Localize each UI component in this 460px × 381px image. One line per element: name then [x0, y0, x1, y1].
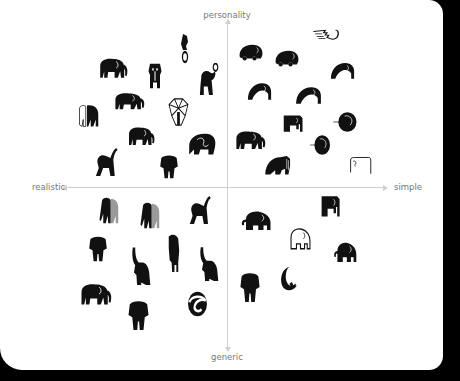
- elephant-logo-standing-cartoon-elephant-icon: [145, 60, 165, 90]
- axis-label-generic: generic: [211, 352, 243, 362]
- elephant-logo-arched-elephant-icon: [328, 59, 357, 80]
- elephant-logo-front-view-elephant-icon: [158, 153, 180, 180]
- elephant-logo-realistic-pair-elephant-icon: [97, 195, 122, 225]
- elephant-logo-walking-elephant-icon: [126, 124, 156, 148]
- elephant-logo-front-view-elephant-icon: [238, 270, 262, 304]
- elephant-logo-walking-elephant-icon: [78, 280, 113, 308]
- horizontal-axis: [66, 187, 384, 188]
- elephant-logo-rounded-elephant-icon: [332, 240, 359, 265]
- axis-label-simple: simple: [394, 182, 422, 192]
- axis-label-realistic: realistic: [32, 182, 65, 192]
- elephant-logo-arched-elephant-icon: [245, 79, 274, 101]
- elephant-logo-round-car-elephant-icon: [273, 48, 301, 70]
- elephant-logo-walking-elephant-icon: [112, 90, 146, 112]
- elephant-logo-square-elephant-icon: [280, 113, 305, 133]
- elephant-logo-circle-elephant-icon: [332, 110, 360, 134]
- elephant-logo-round-car-elephant-icon: [237, 42, 265, 64]
- elephant-logo-winged-trunk-outline-icon: [310, 28, 344, 47]
- elephant-logo-rounded-elephant-outline-icon: [287, 226, 314, 252]
- elephant-logo-square-elephant-icon: [318, 193, 342, 218]
- elephant-logo-trumpeting-elephant-icon: [93, 146, 122, 178]
- elephant-logo-circle-elephant-icon: [309, 133, 333, 157]
- vertical-axis: [227, 22, 228, 348]
- elephant-logo-line-elephant-outline-icon: [348, 155, 374, 175]
- elephant-logo-walking-elephant-icon: [233, 128, 267, 152]
- elephant-logo-circus-elephant-on-ring-icon: [175, 32, 195, 64]
- elephant-logo-circle-swirl-elephant-icon: [184, 290, 211, 318]
- elephant-logo-mammoth-icon: [262, 153, 295, 176]
- elephant-logo-standing-elephant-tall-icon: [164, 234, 183, 272]
- elephant-logo-rearing-elephant-icon: [196, 245, 220, 281]
- elephant-logo-rounded-elephant-icon: [239, 209, 274, 233]
- elephant-logo-curled-elephant-icon: [186, 130, 218, 156]
- elephant-logo-geometric-elephant-outline-icon: [165, 97, 192, 127]
- elephant-logo-walking-elephant-icon: [97, 55, 129, 81]
- axis-label-personality: personality: [203, 10, 250, 20]
- elephant-logo-circus-elephant-with-ball-icon: [196, 63, 222, 97]
- elephant-logo-black-white-elephant-pair-icon: [77, 102, 102, 130]
- elephant-logo-front-view-elephant-icon: [126, 298, 151, 332]
- elephant-logo-trumpeting-elephant-icon: [187, 194, 215, 226]
- elephant-logo-crescent-moon-elephant-icon: [277, 265, 302, 292]
- diagram-card: personality generic realistic simple: [0, 0, 443, 370]
- elephant-logo-rearing-elephant-icon: [128, 245, 152, 285]
- elephant-logo-realistic-pair-elephant-icon: [138, 200, 163, 230]
- elephant-logo-arched-elephant-icon: [293, 83, 324, 105]
- elephant-logo-front-view-elephant-icon: [87, 234, 109, 263]
- arrow-right-icon: [383, 185, 388, 191]
